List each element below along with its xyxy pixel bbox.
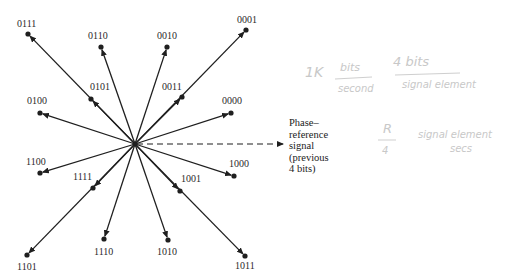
- point-0000: [228, 110, 233, 115]
- label-1110: 1110: [94, 246, 113, 257]
- label-0101: 0101: [90, 81, 110, 92]
- origin-point: [133, 142, 138, 147]
- ref-line-2: reference: [289, 129, 329, 141]
- label-0100: 0100: [27, 95, 47, 106]
- note-4bits: 4 bits: [393, 54, 429, 69]
- point-1010: [165, 237, 170, 242]
- handwritten-notes: 1K bits second 4 bits signal element R 4…: [305, 54, 493, 156]
- label-1010: 1010: [157, 246, 177, 257]
- note-fraction-bar-1: [335, 77, 372, 79]
- point-0010: [164, 44, 169, 49]
- label-0000: 0000: [222, 95, 242, 106]
- vector-1011: [135, 144, 243, 254]
- vector-0010: [135, 50, 166, 144]
- ref-line-3: signal: [289, 140, 329, 152]
- note-bits: bits: [340, 61, 360, 74]
- vector-1010: [135, 144, 167, 237]
- phase-reference-label: Phase– reference signal (previous 4 bits…: [289, 117, 329, 175]
- note-secs: secs: [450, 143, 472, 154]
- ref-line-5: 4 bits): [289, 163, 329, 175]
- point-1011: [242, 253, 247, 258]
- point-0111: [25, 31, 30, 36]
- label-0001: 0001: [237, 14, 257, 25]
- point-0100: [37, 110, 42, 115]
- vector-1110: [105, 144, 135, 236]
- point-1110: [101, 236, 106, 241]
- label-1100: 1100: [26, 156, 46, 167]
- vector-0110: [102, 50, 135, 144]
- label-1001: 1001: [181, 173, 201, 184]
- point-1000: [231, 173, 236, 178]
- label-1111: 1111: [73, 171, 92, 182]
- note-signal-element: signal element: [402, 79, 477, 90]
- label-1011: 1011: [235, 260, 255, 271]
- note-second: second: [338, 83, 374, 94]
- point-1101: [24, 252, 29, 257]
- point-1100: [37, 170, 42, 175]
- label-1000: 1000: [229, 158, 249, 169]
- note-1k: 1K: [305, 64, 325, 80]
- point-0001: [243, 27, 248, 32]
- label-0110: 0110: [88, 30, 108, 41]
- note-r: R: [383, 121, 392, 136]
- label-1101: 1101: [17, 261, 37, 272]
- point-0011: [179, 94, 184, 99]
- label-0010: 0010: [157, 30, 177, 41]
- constellation-diagram: 0111011000100001010100110100000011001000…: [0, 0, 527, 280]
- ref-line-1: Phase–: [289, 117, 329, 129]
- point-0110: [98, 44, 103, 49]
- phase-vectors: [24, 27, 248, 258]
- note-4: 4: [382, 145, 388, 156]
- ref-line-4: (previous: [289, 152, 329, 164]
- label-0011: 0011: [162, 81, 182, 92]
- point-0101: [88, 96, 93, 101]
- note-signal-element-2: signal element: [418, 129, 493, 140]
- label-0111: 0111: [17, 18, 36, 29]
- note-fraction-bar-2: [395, 73, 460, 75]
